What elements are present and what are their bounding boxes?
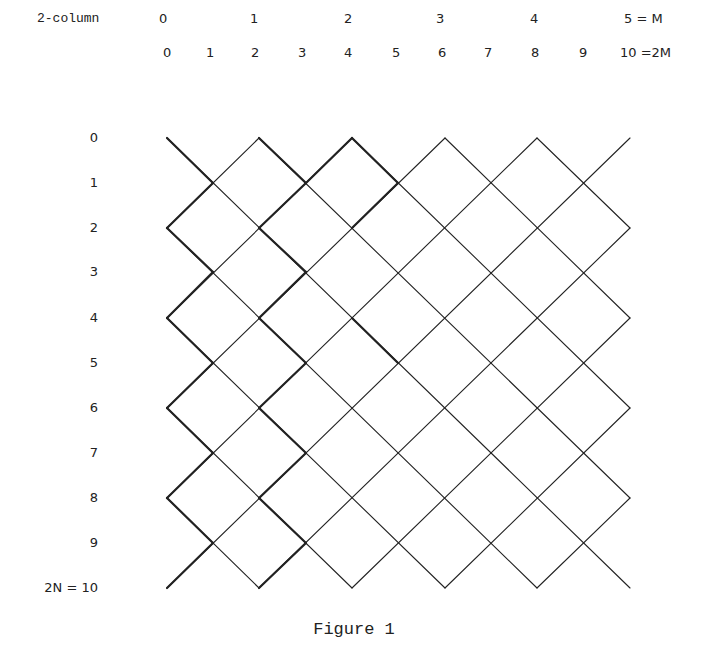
diamond-lattice bbox=[0, 0, 708, 653]
bold-path-segments bbox=[167, 138, 398, 588]
figure-caption: Figure 1 bbox=[0, 620, 708, 639]
